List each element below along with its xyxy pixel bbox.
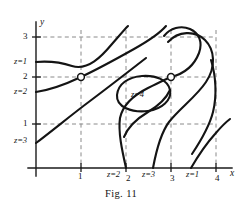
contour-curve-z2-left — [36, 26, 166, 92]
contour-label-z2-left: z=2 — [14, 87, 27, 96]
contour-label-z3-bottom: z=3 — [142, 170, 155, 179]
contour-curve-z2-lower — [119, 77, 171, 168]
contour-figure: y x 3 2 1 1 2 3 4 z=1 z=2 z=3 z=2 z=3 z=… — [0, 0, 242, 210]
contour-curve-right-descender — [192, 60, 215, 154]
y-tick-label-3: 3 — [23, 32, 27, 41]
x-tick-label-1: 1 — [78, 172, 82, 181]
contour-label-z1-bottom: z=1 — [186, 170, 199, 179]
contour-label-z4-interior: z=4 — [131, 90, 144, 99]
contour-plot-canvas — [0, 0, 242, 210]
saddle-point-left-marker — [78, 74, 85, 81]
y-tick-label-2: 2 — [23, 72, 27, 81]
saddle-point-right-marker — [168, 74, 175, 81]
gridlines — [36, 30, 216, 168]
x-tick-label-2: 2 — [126, 174, 130, 183]
contour-label-z3-left: z=3 — [14, 136, 27, 145]
axis-ticks — [32, 37, 216, 172]
figure-caption: Fig. 11 — [0, 188, 242, 199]
x-tick-label-3: 3 — [170, 174, 174, 183]
contour-label-z1-left: z=1 — [14, 57, 27, 66]
y-axis-label: y — [40, 18, 44, 28]
x-axis-label: x — [230, 169, 234, 179]
y-tick-label-1: 1 — [23, 119, 27, 128]
x-tick-label-4: 4 — [215, 174, 219, 183]
contour-label-z2-bottom: z=2 — [107, 170, 120, 179]
contour-curve-z1-right — [191, 119, 230, 168]
